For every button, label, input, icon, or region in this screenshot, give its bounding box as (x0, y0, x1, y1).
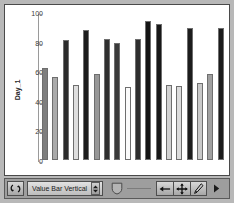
bar[interactable] (114, 43, 120, 160)
bar[interactable] (187, 28, 193, 160)
bar[interactable] (145, 21, 151, 160)
chart-window: Day_1 100806040200 Value Bar Vertical (0, 0, 234, 203)
chart-type-select[interactable]: Value Bar Vertical (27, 181, 103, 196)
y-tick-mark (39, 162, 42, 163)
bar[interactable] (207, 74, 213, 160)
back-arrow-button[interactable] (156, 181, 173, 196)
chart-panel: Day_1 100806040200 (4, 4, 230, 176)
bar-series (41, 12, 227, 160)
bar[interactable] (63, 40, 69, 160)
chart-type-select-label: Value Bar Vertical (32, 185, 91, 192)
bar[interactable] (42, 68, 48, 160)
toolbar-button-group (156, 181, 207, 196)
pencil-icon-button[interactable] (190, 181, 207, 196)
toolbar-divider (127, 188, 151, 189)
bar[interactable] (73, 85, 79, 160)
bar[interactable] (94, 74, 100, 160)
y-axis-line (38, 14, 39, 162)
bar[interactable] (125, 87, 131, 160)
y-axis-label: Day_1 (14, 80, 21, 101)
chart-toolbar: Value Bar Vertical (4, 178, 230, 199)
move-cross-button[interactable] (173, 181, 190, 196)
bar[interactable] (104, 39, 110, 160)
bar[interactable] (83, 30, 89, 160)
bar[interactable] (197, 83, 203, 160)
shield-icon[interactable] (109, 181, 124, 196)
bar[interactable] (218, 28, 224, 160)
bar[interactable] (156, 24, 162, 160)
bar[interactable] (52, 77, 58, 160)
expand-toolbar-button[interactable] (211, 181, 222, 196)
bar[interactable] (176, 86, 182, 160)
bar[interactable] (166, 85, 172, 160)
circular-arrows-icon-button[interactable] (7, 181, 24, 196)
stepper-up-down-icon[interactable] (91, 182, 100, 195)
bar[interactable] (135, 39, 141, 160)
plot-area: Day_1 100806040200 (5, 5, 229, 175)
